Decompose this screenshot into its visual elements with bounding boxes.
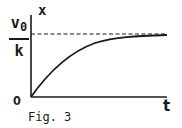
y-axis-label: x (38, 3, 46, 17)
numerator-subscript: 0 (20, 20, 27, 34)
figure-caption: Fig. 3 (28, 111, 71, 123)
asymptote-denominator: k (9, 43, 29, 60)
origin-label: O (13, 94, 21, 107)
x-axis-label: t (163, 99, 170, 114)
asymptote-numerator: v0 (9, 15, 29, 36)
asymptote-label-v0-over-k: v0 k (9, 15, 29, 60)
numerator-v: v (11, 14, 20, 32)
exponential-curve (31, 35, 167, 97)
fraction-bar (9, 38, 29, 40)
